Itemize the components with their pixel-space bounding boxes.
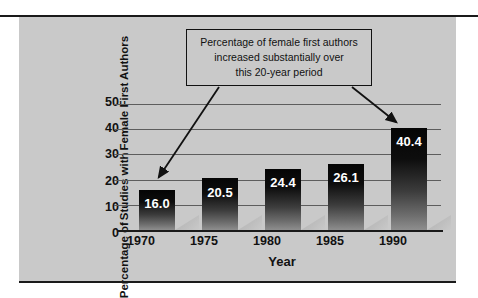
x-tick-label-1980: 1980 (237, 234, 297, 248)
plot-area: 16.0 20.5 24.4 26.1 40.4 (123, 104, 441, 230)
callout-line-2: increased substantially over (214, 50, 344, 65)
bar-shadow (364, 215, 388, 230)
bar-value-1985: 26.1 (328, 170, 364, 185)
y-tick-label: 10 (95, 201, 119, 214)
x-tick-label-1985: 1985 (300, 234, 360, 248)
callout-line-3: this 20-year period (236, 65, 323, 80)
bar-value-1970: 16.0 (139, 196, 175, 211)
gridline (123, 104, 441, 105)
x-axis-title: Year (123, 254, 441, 269)
x-tick-label-1990: 1990 (363, 234, 423, 248)
y-tick-mark (114, 104, 123, 105)
y-tick-mark (114, 180, 123, 181)
y-tick-mark (114, 205, 123, 206)
x-tick-label-1970: 1970 (111, 234, 171, 248)
annotation-callout: Percentage of female first authors incre… (186, 29, 372, 86)
x-tick-label-1975: 1975 (174, 234, 234, 248)
bar-shadow (175, 215, 199, 230)
bar-value-1975: 20.5 (202, 185, 238, 200)
bottom-rule (19, 281, 456, 283)
y-tick-label: 50 (95, 96, 119, 109)
callout-line-1: Percentage of female first authors (200, 35, 358, 50)
figure-root: Percentage of Studies with Female First … (0, 0, 478, 298)
x-axis-line (118, 230, 443, 232)
y-tick-label: 20 (95, 175, 119, 188)
bar-shadow (301, 215, 325, 230)
y-tick-mark (114, 154, 123, 155)
y-tick-mark (114, 129, 123, 130)
bar-value-1990: 40.4 (391, 134, 427, 149)
bar-shadow (238, 215, 262, 230)
bar-value-1980: 24.4 (265, 175, 301, 190)
y-axis-tick-labels: 50 40 30 20 10 0 (95, 96, 119, 238)
